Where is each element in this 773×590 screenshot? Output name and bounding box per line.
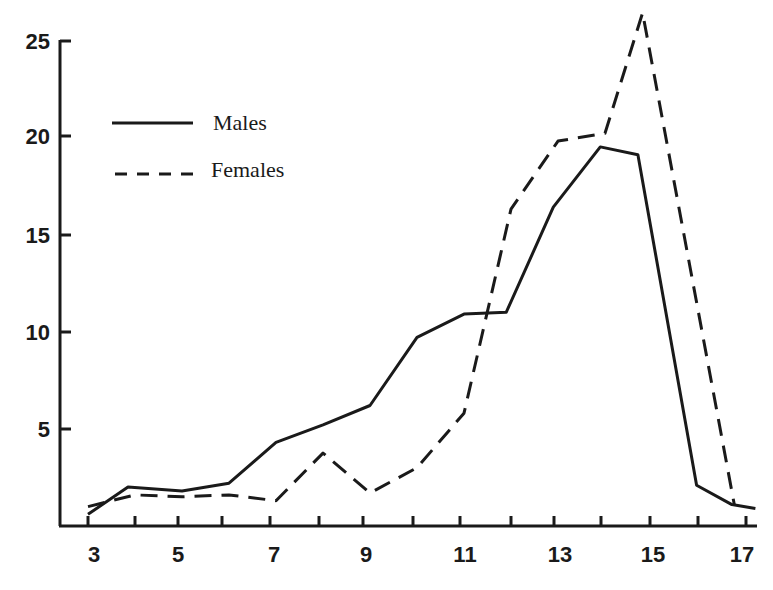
- y-tick-label: 15: [26, 223, 50, 248]
- y-axis: [60, 40, 71, 526]
- y-tick-label: 25: [26, 29, 50, 54]
- x-tick-label: 5: [172, 542, 184, 567]
- x-tick-label: 15: [641, 542, 665, 567]
- y-axis-labels: 25 20 15 10 5: [26, 29, 50, 442]
- x-tick-label: 17: [730, 542, 754, 567]
- x-axis: [59, 516, 757, 526]
- x-tick-label: 7: [268, 542, 280, 567]
- females-line: [88, 13, 734, 507]
- y-tick-label: 5: [38, 417, 50, 442]
- legend-males-label: Males: [213, 110, 267, 135]
- y-tick-label: 20: [26, 124, 50, 149]
- x-tick-label: 13: [548, 542, 572, 567]
- x-tick-label: 9: [360, 542, 372, 567]
- x-tick-label: 3: [88, 542, 100, 567]
- x-tick-label: 11: [453, 542, 476, 567]
- line-chart: 25 20 15 10 5 3 5 7 9 11 13 15 17: [0, 0, 773, 590]
- x-axis-labels: 3 5 7 9 11 13 15 17: [88, 542, 754, 567]
- y-tick-label: 10: [26, 320, 50, 345]
- legend: Males Females: [112, 110, 284, 182]
- males-line: [88, 147, 755, 514]
- legend-females-label: Females: [211, 157, 284, 182]
